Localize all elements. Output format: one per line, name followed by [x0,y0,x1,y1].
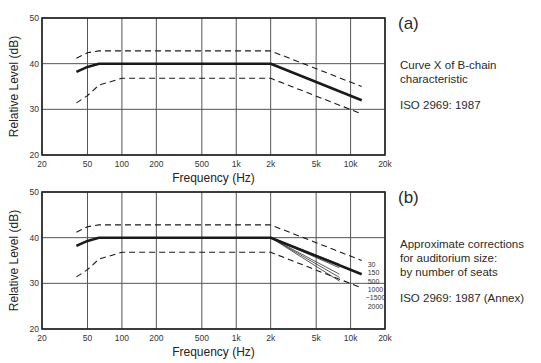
x-tick-label: 500 [195,159,209,169]
panel-b-desc-line-1: Approximate corrections [400,237,524,251]
x-tick-label: 100 [115,333,129,343]
x-tick-label: 100 [115,159,129,169]
curve-x-line [76,64,361,100]
plot-frame [42,18,385,155]
panel-a-description: Curve X of B-chain characteristic ISO 29… [400,58,497,112]
panel-b-label: (b) [398,188,419,208]
chart-panel-a: 20501002005001k2k5k10k20k20304050Frequen… [7,13,393,185]
x-tick-label: 50 [83,333,93,343]
y-tick-label: 30 [30,104,40,114]
panel-a-desc-line-1: Curve X of B-chain [400,58,497,72]
x-tick-label: 1k [232,159,242,169]
y-tick-label: 50 [30,187,40,197]
x-tick-label: 50 [83,159,93,169]
x-tick-label: 5k [312,159,322,169]
x-tick-label: 2k [266,159,276,169]
panel-a-desc-line-2: characteristic [400,72,497,86]
seat-correction-line [271,238,340,278]
x-tick-label: 200 [149,159,163,169]
seat-count-label: 500 [368,278,380,285]
panel-b-desc-line-3: by number of seats [400,265,524,279]
x-tick-label: 5k [312,333,322,343]
seat-count-label: ~1500 [366,294,386,301]
x-tick-label: 20 [37,333,47,343]
chart-panel-b: 20501002005001k2k5k10k20k20304050Frequen… [7,187,393,359]
y-tick-label: 30 [30,278,40,288]
panel-b-description: Approximate corrections for auditorium s… [400,237,524,305]
seat-correction-line [271,238,340,281]
panel-b-standard: ISO 2969: 1987 (Annex) [400,291,524,305]
x-tick-label: 200 [149,333,163,343]
x-tick-label: 10k [344,333,358,343]
charts-canvas: 20501002005001k2k5k10k20k20304050Frequen… [0,0,541,363]
y-axis-label: Relative Level (dB) [7,210,21,311]
seat-count-label: 1000 [368,286,384,293]
seat-count-label: 30 [368,261,376,268]
tolerance-line [76,225,361,261]
panel-a-label: (a) [398,14,419,34]
y-tick-label: 40 [30,233,40,243]
x-tick-label: 10k [344,159,358,169]
seat-count-label: 2000 [368,303,384,310]
x-axis-label: Frequency (Hz) [172,171,255,185]
x-tick-label: 20 [37,159,47,169]
y-tick-label: 50 [30,13,40,23]
x-tick-label: 1k [232,333,242,343]
x-tick-label: 500 [195,333,209,343]
x-axis-label: Frequency (Hz) [172,345,255,359]
x-tick-label: 20k [378,333,392,343]
curve-x-line [76,238,361,275]
panel-a-standard: ISO 2969: 1987 [400,98,497,112]
y-tick-label: 20 [30,324,40,334]
y-axis-label: Relative Level (dB) [7,36,21,137]
seat-count-label: 150 [368,269,380,276]
y-tick-label: 20 [30,150,40,160]
y-tick-label: 40 [30,59,40,69]
x-tick-label: 2k [266,333,276,343]
plot-frame [42,192,385,329]
tolerance-line [76,51,361,87]
x-tick-label: 20k [378,159,392,169]
panel-b-desc-line-2: for auditorium size: [400,251,524,265]
